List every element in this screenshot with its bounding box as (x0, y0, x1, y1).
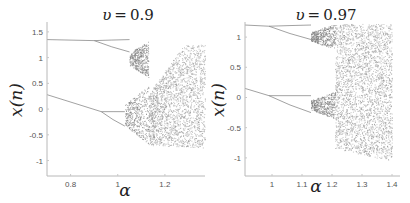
scatter-point (150, 120, 151, 121)
scatter-point (335, 137, 336, 138)
scatter-point (196, 135, 197, 136)
scatter-point (168, 103, 169, 104)
scatter-point (376, 102, 377, 103)
scatter-point (132, 131, 133, 132)
scatter-point (350, 63, 351, 64)
scatter-point (365, 146, 366, 147)
y-ticks-right: 10.50-0.5-1 (227, 33, 247, 163)
scatter-point (201, 107, 202, 108)
scatter-point (184, 68, 185, 69)
scatter-point (326, 97, 327, 98)
scatter-point (346, 60, 347, 61)
scatter-point (176, 64, 177, 65)
scatter-point (358, 84, 359, 85)
scatter-point (349, 143, 350, 144)
scatter-point (322, 107, 323, 108)
scatter-point (202, 51, 203, 52)
scatter-point (193, 118, 194, 119)
scatter-point (322, 101, 323, 102)
branch-line-upper-1 (94, 41, 129, 52)
scatter-point (139, 53, 140, 54)
scatter-point (331, 112, 332, 113)
scatter-point (184, 73, 185, 74)
scatter-point (197, 51, 198, 52)
scatter-point (169, 121, 170, 122)
scatter-point (179, 129, 180, 130)
scatter-point (382, 89, 383, 90)
scatter-point (362, 100, 363, 101)
scatter-point (162, 116, 163, 117)
scatter-point (351, 66, 352, 67)
scatter-point (392, 97, 393, 98)
scatter-point (192, 82, 193, 83)
scatter-point (132, 107, 133, 108)
scatter-point (370, 67, 371, 68)
scatter-point (201, 77, 202, 78)
scatter-point (352, 83, 353, 84)
scatter-point (134, 67, 135, 68)
scatter-point (373, 127, 374, 128)
scatter-point (384, 57, 385, 58)
scatter-point (165, 136, 166, 137)
scatter-point (360, 115, 361, 116)
scatter-point (387, 146, 388, 147)
scatter-point (189, 115, 190, 116)
scatter-point (154, 129, 155, 130)
scatter-point (353, 104, 354, 105)
scatter-point (177, 79, 178, 80)
scatter-point (164, 108, 165, 109)
scatter-point (345, 36, 346, 37)
scatter-point (329, 94, 330, 95)
scatter-point (382, 77, 383, 78)
scatter-point (377, 76, 378, 77)
scatter-point (377, 42, 378, 43)
scatter-point (134, 60, 135, 61)
scatter-point (177, 133, 178, 134)
scatter-point (170, 76, 171, 77)
scatter-point (370, 56, 371, 57)
scatter-point (362, 91, 363, 92)
scatter-point (355, 101, 356, 102)
scatter-point (200, 82, 201, 83)
scatter-point (176, 134, 177, 135)
scatter-point (370, 29, 371, 30)
scatter-point (175, 126, 176, 127)
scatter-point (158, 97, 159, 98)
scatter-point (171, 63, 172, 64)
scatter-point (130, 113, 131, 114)
scatter-point (203, 46, 204, 47)
scatter-point (382, 139, 383, 140)
scatter-point (204, 107, 205, 108)
scatter-point (140, 47, 141, 48)
scatter-point (387, 155, 388, 156)
scatter-point (149, 110, 150, 111)
scatter-point (352, 128, 353, 129)
scatter-point (173, 143, 174, 144)
scatter-point (391, 50, 392, 51)
scatter-point (163, 134, 164, 135)
scatter-point (354, 70, 355, 71)
scatter-point (360, 144, 361, 145)
scatter-point (389, 75, 390, 76)
scatter-point (380, 134, 381, 135)
scatter-point (341, 38, 342, 39)
scatter-point (347, 82, 348, 83)
scatter-point (180, 65, 181, 66)
scatter-point (165, 79, 166, 80)
scatter-point (323, 29, 324, 30)
scatter-point (388, 95, 389, 96)
scatter-point (169, 76, 170, 77)
scatter-point (166, 77, 167, 78)
scatter-point (386, 74, 387, 75)
scatter-point (362, 133, 363, 134)
scatter-point (383, 50, 384, 51)
scatter-point (336, 27, 337, 28)
scatter-point (131, 120, 132, 121)
scatter-point (336, 57, 337, 58)
scatter-point (368, 138, 369, 139)
scatter-point (373, 30, 374, 31)
scatter-point (386, 131, 387, 132)
scatter-point (167, 123, 168, 124)
scatter-point (314, 105, 315, 106)
scatter-point (349, 67, 350, 68)
